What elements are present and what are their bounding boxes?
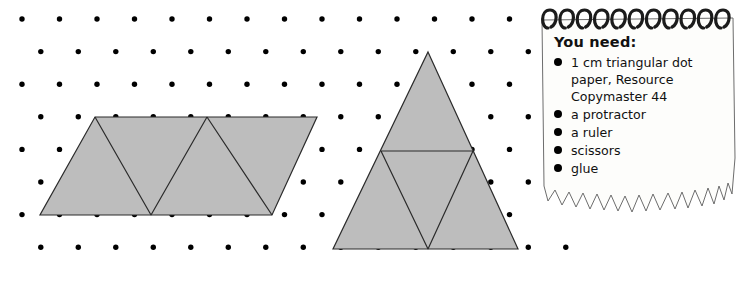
- bullet-icon: [554, 110, 562, 118]
- grid-dot: [188, 49, 193, 54]
- grid-dot: [507, 147, 512, 152]
- notepad-title: You need:: [554, 34, 730, 50]
- grid-dot: [169, 82, 174, 87]
- grid-dot: [526, 49, 531, 54]
- grid-dot: [207, 82, 212, 87]
- grid-dot: [151, 245, 156, 250]
- grid-dot: [263, 245, 268, 250]
- material-item-label: scissors: [571, 142, 730, 159]
- grid-dot: [169, 16, 174, 21]
- grid-dot: [132, 82, 137, 87]
- material-item-label: a protractor: [571, 106, 730, 123]
- you-need-notepad: You need: 1 cm triangular dot paper, Res…: [536, 8, 738, 220]
- grid-dot: [563, 245, 568, 250]
- material-item-label: 1 cm triangular dot paper, Resource Copy…: [571, 54, 730, 105]
- grid-dot: [19, 212, 24, 217]
- bullet-icon: [554, 128, 562, 136]
- grid-dot: [526, 114, 531, 119]
- material-item: glue: [554, 160, 730, 177]
- material-item-label: glue: [571, 160, 730, 177]
- grid-dot: [38, 49, 43, 54]
- grid-dot: [451, 49, 456, 54]
- notepad-content: You need: 1 cm triangular dot paper, Res…: [554, 34, 730, 178]
- bullet-icon: [554, 146, 562, 154]
- grid-dot: [282, 16, 287, 21]
- grid-dot: [226, 49, 231, 54]
- grid-dot: [488, 49, 493, 54]
- grid-dot: [57, 82, 62, 87]
- grid-dot: [338, 114, 343, 119]
- grid-dot: [94, 16, 99, 21]
- grid-dot: [394, 16, 399, 21]
- bullet-icon: [554, 58, 562, 66]
- grid-dot: [132, 16, 137, 21]
- grid-dot: [244, 16, 249, 21]
- grid-dot: [226, 245, 231, 250]
- grid-dot: [113, 245, 118, 250]
- grid-dot: [76, 49, 81, 54]
- grid-dot: [507, 82, 512, 87]
- grid-dot: [188, 245, 193, 250]
- grid-dot: [282, 212, 287, 217]
- grid-dot: [526, 245, 531, 250]
- grid-dot: [94, 82, 99, 87]
- grid-dot: [338, 179, 343, 184]
- grid-dot: [338, 49, 343, 54]
- grid-dot: [301, 179, 306, 184]
- material-item: a protractor: [554, 106, 730, 123]
- grid-dot: [301, 245, 306, 250]
- grid-dot: [357, 16, 362, 21]
- worksheet-page: You need: 1 cm triangular dot paper, Res…: [0, 0, 750, 286]
- grid-dot: [319, 82, 324, 87]
- grid-dot: [357, 147, 362, 152]
- grid-dot: [507, 212, 512, 217]
- grid-dot: [207, 16, 212, 21]
- grid-dot: [488, 114, 493, 119]
- grid-dot: [57, 147, 62, 152]
- grid-dot: [113, 49, 118, 54]
- bullet-icon: [554, 164, 562, 172]
- grey-shapes: [40, 52, 518, 249]
- grid-dot: [394, 82, 399, 87]
- grid-dot: [319, 212, 324, 217]
- grid-dot: [282, 82, 287, 87]
- grid-dot: [244, 82, 249, 87]
- grid-dot: [413, 49, 418, 54]
- grid-dot: [19, 82, 24, 87]
- grid-dot: [263, 49, 268, 54]
- grid-dot: [469, 16, 474, 21]
- grid-dot: [432, 16, 437, 21]
- grid-dot: [376, 114, 381, 119]
- grid-dot: [376, 49, 381, 54]
- grid-dot: [319, 16, 324, 21]
- grid-dot: [38, 245, 43, 250]
- grid-dot: [76, 114, 81, 119]
- material-item: a ruler: [554, 124, 730, 141]
- grid-dot: [76, 245, 81, 250]
- grid-dot: [19, 147, 24, 152]
- grid-dot: [151, 49, 156, 54]
- grid-dot: [357, 82, 362, 87]
- grid-dot: [38, 114, 43, 119]
- grid-dot: [507, 16, 512, 21]
- grid-dot: [301, 49, 306, 54]
- grid-dot: [57, 16, 62, 21]
- grid-dot: [319, 147, 324, 152]
- material-item: scissors: [554, 142, 730, 159]
- materials-list: 1 cm triangular dot paper, Resource Copy…: [554, 54, 730, 177]
- material-item-label: a ruler: [571, 124, 730, 141]
- grid-dot: [38, 179, 43, 184]
- grid-dot: [526, 179, 531, 184]
- grid-dot: [469, 82, 474, 87]
- material-item: 1 cm triangular dot paper, Resource Copy…: [554, 54, 730, 105]
- grid-dot: [19, 16, 24, 21]
